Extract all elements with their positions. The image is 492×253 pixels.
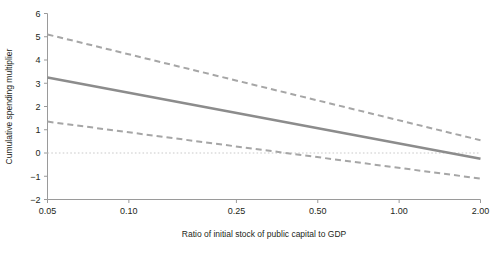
x-tick-label: 0.05 bbox=[39, 206, 57, 216]
y-tick-label: 1 bbox=[35, 125, 40, 135]
x-tick-label: 0.10 bbox=[120, 206, 138, 216]
x-tick-label: 2.00 bbox=[472, 206, 490, 216]
x-axis-title: Ratio of initial stock of public capital… bbox=[182, 229, 347, 239]
chart-svg: −2−10123456 0.050.100.250.501.002.00 Cum… bbox=[0, 0, 492, 253]
y-tick-label: −2 bbox=[30, 195, 40, 205]
figure-background bbox=[0, 0, 492, 253]
y-tick-label: 2 bbox=[35, 102, 40, 112]
y-axis-title: Cumulative spending multiplier bbox=[4, 48, 14, 164]
y-tick-label: 6 bbox=[35, 9, 40, 19]
y-tick-label: 0 bbox=[35, 148, 40, 158]
x-tick-label: 0.25 bbox=[228, 206, 246, 216]
y-tick-label: −1 bbox=[30, 172, 40, 182]
y-tick-label: 5 bbox=[35, 32, 40, 42]
chart-figure: −2−10123456 0.050.100.250.501.002.00 Cum… bbox=[0, 0, 492, 253]
x-tick-label: 0.50 bbox=[309, 206, 327, 216]
x-tick-label: 1.00 bbox=[390, 206, 408, 216]
y-tick-label: 4 bbox=[35, 55, 40, 65]
y-tick-label: 3 bbox=[35, 79, 40, 89]
